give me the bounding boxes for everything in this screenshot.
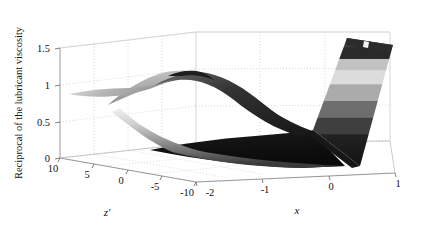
y-tick-label-2: 5 — [84, 169, 89, 180]
x-tick-label-1: -2 — [206, 187, 215, 198]
z-tick-label-1: 1.5 — [37, 43, 50, 54]
y-tick-label-4: -5 — [151, 181, 160, 192]
surface-ridge-crest — [150, 72, 312, 136]
x-tick-label-4: 1 — [395, 178, 400, 189]
z-axis-title: Reciprocal of the lubricant viscosity — [13, 26, 24, 179]
x-tick-marks — [196, 173, 396, 186]
z-tick-label-2: 1 — [45, 80, 50, 91]
y-tick-marks — [58, 158, 196, 186]
y-tick-label-5: -10 — [180, 187, 194, 198]
x-axis-line — [196, 173, 395, 182]
z-tick-labels: 1.5 1 0.5 0 — [37, 43, 50, 164]
y-axis-title: z' — [103, 206, 111, 218]
z-tick-label-3: 0.5 — [37, 117, 50, 128]
x-axis-title: x — [294, 204, 300, 216]
x-tick-labels: -2 -1 0 1 — [206, 178, 401, 198]
x-tick-label-2: -1 — [261, 184, 270, 195]
y-tick-labels: 10 5 0 -5 -10 — [48, 163, 194, 198]
surface-plot-canvas: 1.5 1 0.5 0 10 5 0 -5 -10 -2 -1 0 1 Reci… — [0, 0, 422, 239]
y-tick-label-3: 0 — [118, 175, 123, 186]
surface-mesh — [69, 38, 393, 168]
surface-wall-notch — [363, 41, 369, 48]
z-tick-marks — [55, 48, 60, 159]
figure-3d-surface-plot: 1.5 1 0.5 0 10 5 0 -5 -10 -2 -1 0 1 Reci… — [0, 0, 422, 239]
x-tick-label-3: 0 — [328, 181, 333, 192]
y-tick-label-1: 10 — [48, 163, 59, 174]
